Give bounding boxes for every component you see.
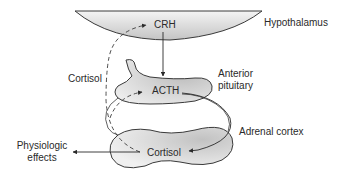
hypothalamus-label: Hypothalamus [264,17,328,28]
physiologic-effects-label-line2: effects [12,152,72,163]
anterior-pituitary-shape [115,60,212,104]
anterior-pituitary-label-line1: Anterior [218,68,253,79]
anterior-pituitary-label-line2: pituitary [218,80,253,91]
adrenal-cortex-label: Adrenal cortex [239,126,303,137]
cortisol-feedback-label: Cortisol [68,73,102,84]
physiologic-effects-label-line1: Physiologic [12,140,72,151]
cortisol-product-label: Cortisol [147,147,181,158]
connector-ring [106,98,118,135]
crh-label: CRH [154,19,176,30]
acth-label: ACTH [152,85,179,96]
